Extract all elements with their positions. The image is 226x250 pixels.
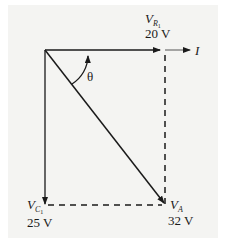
va-label: VA [170, 198, 183, 213]
vc-value: 25 V [27, 216, 52, 229]
current-label: I [195, 44, 199, 57]
va-value: 32 V [168, 214, 193, 227]
theta-arc [72, 56, 88, 84]
theta-label: θ [87, 70, 93, 83]
va-phasor [45, 50, 164, 203]
vr-value: 20 V [145, 27, 170, 40]
vc-label: VC1 [27, 198, 43, 214]
